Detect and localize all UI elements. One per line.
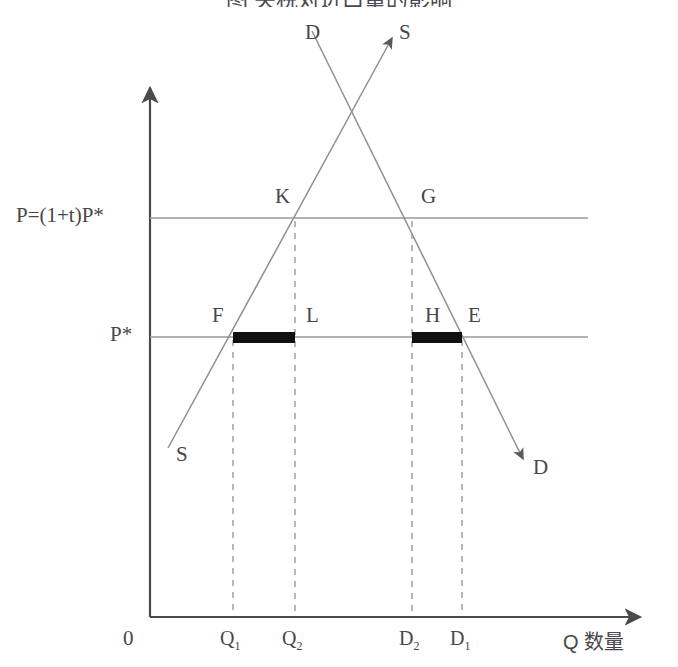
point-label-l: L [306, 305, 319, 326]
point-label-k: K [275, 186, 290, 207]
x-tick-q1: Q1 [220, 628, 240, 652]
demand-curve-bottom-label: D [533, 457, 548, 478]
point-label-g: G [421, 186, 436, 207]
x-tick-d1-sub: 1 [464, 639, 470, 653]
x-tick-q2: Q2 [282, 628, 302, 652]
x-tick-q2-base: Q [282, 627, 296, 649]
point-label-h: H [425, 305, 440, 326]
origin-label: 0 [123, 628, 134, 649]
supply-curve [168, 38, 392, 448]
supply-curve-top-label: S [399, 22, 411, 43]
x-tick-d1: D1 [450, 628, 470, 652]
x-tick-q1-base: Q [220, 627, 234, 649]
x-axis-title: Q 数量 [563, 632, 624, 652]
point-label-f: F [212, 305, 224, 326]
x-tick-d2: D2 [399, 628, 419, 652]
highlight-bar-he [412, 332, 462, 343]
demand-curve [312, 31, 523, 459]
tariff-diagram: 图 关税对进口量的影响 P=(1+t)P* [0, 0, 678, 667]
diagram-canvas [0, 0, 678, 667]
tariff-price-label: P=(1+t)P* [16, 205, 104, 226]
x-tick-d2-sub: 2 [413, 639, 419, 653]
x-tick-q2-sub: 2 [296, 639, 302, 653]
point-label-e: E [468, 305, 481, 326]
highlight-bar-fl [233, 332, 295, 343]
demand-curve-top-label: D [305, 22, 320, 43]
x-tick-d2-base: D [399, 627, 413, 649]
supply-curve-bottom-label: S [176, 444, 188, 465]
x-tick-d1-base: D [450, 627, 464, 649]
x-tick-q1-sub: 1 [234, 639, 240, 653]
world-price-label: P* [110, 324, 132, 345]
